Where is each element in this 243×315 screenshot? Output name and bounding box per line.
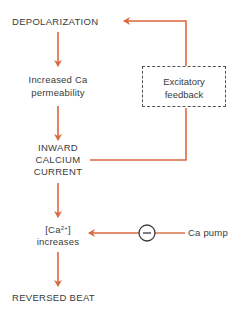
arrow-feedback-to-depolarization <box>124 21 186 66</box>
current-line3: CURRENT <box>18 166 98 178</box>
node-reversed-beat: REVERSED BEAT <box>12 292 95 304</box>
node-depolarization: DEPOLARIZATION <box>12 16 98 28</box>
ca-increases-label: increases <box>18 236 98 248</box>
ca-concentration: [Ca2+] <box>18 222 98 236</box>
excitatory-feedback-label: Excitatory feedback <box>143 75 225 101</box>
current-line1: INWARD <box>18 142 98 154</box>
current-line2: CALCIUM <box>18 154 98 166</box>
node-excitatory-feedback-box: Excitatory feedback <box>142 66 226 107</box>
permeability-line1: Increased Ca <box>8 74 108 86</box>
node-increased-ca-permeability: Increased Ca permeability <box>8 74 108 99</box>
line-current-to-feedback <box>90 108 186 160</box>
node-ca-concentration-increases: [Ca2+] increases <box>18 222 98 248</box>
permeability-line2: permeability <box>8 87 108 99</box>
node-ca-pump: Ca pump <box>188 227 228 239</box>
node-inward-calcium-current: INWARD CALCIUM CURRENT <box>18 142 98 178</box>
